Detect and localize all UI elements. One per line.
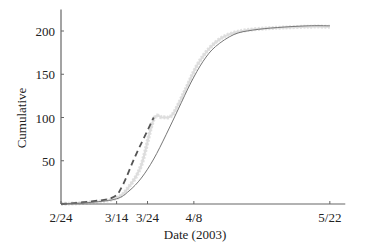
x-tick-label: 3/14 — [105, 210, 129, 225]
axes: 501001502002/243/143/244/85/22 — [36, 9, 346, 225]
y-tick-label: 200 — [36, 24, 56, 39]
x-tick-label: 2/24 — [49, 210, 73, 225]
x-axis-title: Date (2003) — [164, 227, 226, 242]
cumulative-chart: 501001502002/243/143/244/85/22 Cumulativ… — [0, 0, 387, 250]
dashed-fit-line — [61, 118, 154, 205]
x-tick-label: 3/24 — [136, 210, 160, 225]
observed-data-band-core — [61, 27, 330, 204]
plot-area — [61, 26, 330, 204]
y-tick-label: 50 — [42, 154, 55, 169]
observed-data-band — [61, 27, 330, 204]
solid-fit-line — [61, 26, 330, 204]
y-tick-label: 100 — [36, 111, 56, 126]
y-axis-title: Cumulative — [14, 87, 29, 148]
x-tick-label: 4/8 — [186, 210, 203, 225]
x-tick-label: 5/22 — [318, 210, 341, 225]
y-tick-label: 150 — [36, 67, 56, 82]
